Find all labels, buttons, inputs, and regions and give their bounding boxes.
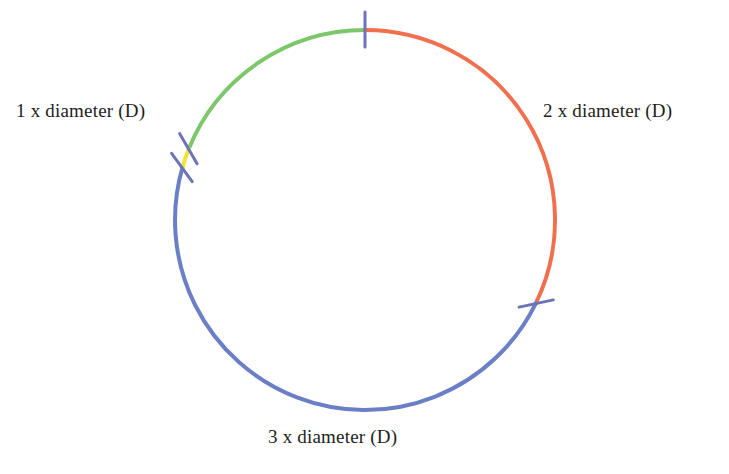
label-two-diameter: 2 x diameter (D) (543, 100, 672, 123)
label-one-diameter: 1 x diameter (D) (16, 100, 145, 123)
arc-green-one-diameter (189, 30, 365, 149)
circle-diagram-canvas: 1 x diameter (D) 2 x diameter (D) 3 x di… (0, 0, 729, 474)
arc-orange-two-diameter (365, 30, 555, 303)
arc-yellow-gap (182, 149, 188, 168)
circle-diagram-svg (0, 0, 729, 474)
label-three-diameter: 3 x diameter (D) (268, 426, 397, 449)
arc-blue-three-diameter (175, 168, 536, 410)
